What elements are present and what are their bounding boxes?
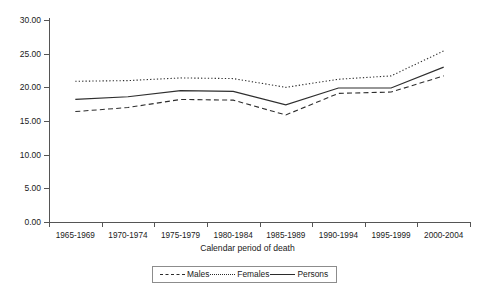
legend-item-persons: Persons bbox=[270, 269, 329, 279]
legend-label-males: Males bbox=[187, 269, 210, 279]
legend-label-females: Females bbox=[237, 269, 270, 279]
series-line-persons bbox=[75, 67, 443, 105]
legend-item-females: Females bbox=[210, 269, 270, 279]
x-axis-title: Calendar period of death bbox=[0, 243, 495, 253]
chart-legend: Males Females Persons bbox=[152, 266, 337, 283]
legend-swatch-solid-icon bbox=[270, 271, 295, 278]
line-chart: 30.0025.0020.0015.0010.005.000.00 1965-1… bbox=[0, 0, 495, 292]
legend-swatch-dashed-icon bbox=[160, 271, 185, 278]
series-line-females bbox=[75, 51, 443, 87]
legend-swatch-dotted-icon bbox=[210, 271, 235, 278]
series-line-males bbox=[75, 76, 443, 115]
legend-label-persons: Persons bbox=[297, 269, 329, 279]
legend-item-males: Males bbox=[160, 269, 210, 279]
